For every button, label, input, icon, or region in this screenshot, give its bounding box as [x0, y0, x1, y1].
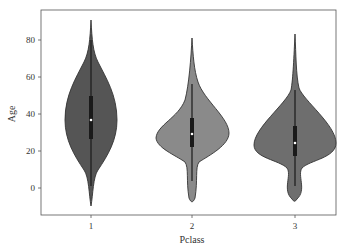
y-tick-20: 20 — [26, 146, 36, 156]
violin-chart: 80 60 40 20 0 Age 1 2 3 Pclass — [0, 0, 353, 250]
y-axis-label: Age — [6, 105, 17, 122]
y-axis: 80 60 40 20 0 Age — [6, 35, 41, 193]
x-axis-label: Pclass — [180, 234, 205, 245]
y-tick-0: 0 — [31, 183, 36, 193]
y-tick-60: 60 — [26, 72, 36, 82]
x-tick-1: 1 — [89, 221, 94, 231]
x-tick-3: 3 — [293, 221, 298, 231]
y-tick-80: 80 — [26, 35, 36, 45]
x-axis: 1 2 3 Pclass — [89, 215, 298, 245]
x-tick-2: 2 — [190, 221, 195, 231]
y-tick-40: 40 — [26, 109, 36, 119]
